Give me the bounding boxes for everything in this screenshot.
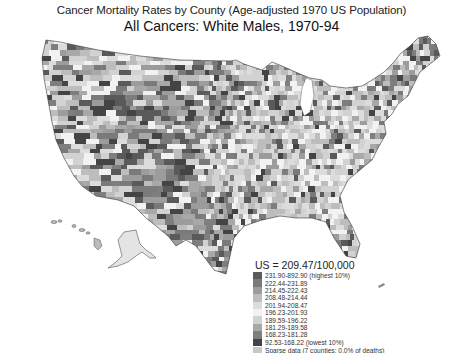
legend-swatch xyxy=(253,294,262,301)
legend-label: 208.48-214.44 xyxy=(265,294,308,301)
legend-label: 181.29-189.58 xyxy=(265,324,308,331)
legend-swatch xyxy=(253,316,262,323)
us-average-rate: US = 209.47/100,000 xyxy=(253,259,453,271)
legend-swatch xyxy=(253,331,262,338)
legend-item: 189.59-196.22 xyxy=(253,316,453,323)
legend-swatch xyxy=(253,279,262,286)
legend-swatch xyxy=(253,287,262,294)
legend-item: 208.48-214.44 xyxy=(253,294,453,301)
legend-item: 196.23-201.93 xyxy=(253,309,453,316)
map-legend: US = 209.47/100,000 231.90-892.90 (highe… xyxy=(253,259,453,353)
legend-swatch xyxy=(253,272,262,279)
legend-label: 231.90-892.90 (highest 10%) xyxy=(265,272,350,279)
legend-item: 214.45-222.43 xyxy=(253,287,453,294)
legend-label: 214.45-222.43 xyxy=(265,287,308,294)
hawaii xyxy=(51,220,102,250)
legend-swatch xyxy=(253,347,262,353)
legend-item: 92.53-168.22 (lowest 10%) xyxy=(253,339,453,346)
legend-item: Sparse data (7 counties; 0.0% of deaths) xyxy=(253,347,453,353)
legend-swatch xyxy=(253,324,262,331)
legend-swatch xyxy=(253,339,262,346)
legend-swatch xyxy=(253,302,262,309)
legend-label: 92.53-168.22 (lowest 10%) xyxy=(265,339,344,346)
legend-label: 168.23-181.28 xyxy=(265,331,308,338)
legend-label: 222.44-231.89 xyxy=(265,280,308,287)
legend-swatch xyxy=(253,309,262,316)
legend-item: 181.29-189.58 xyxy=(253,324,453,331)
legend-item: 201.94-208.47 xyxy=(253,302,453,309)
legend-item: 168.23-181.28 xyxy=(253,331,453,338)
legend-item: 231.90-892.90 (highest 10%) xyxy=(253,272,453,279)
alaska xyxy=(108,230,156,268)
legend-label: 201.94-208.47 xyxy=(265,302,308,309)
legend-label: 196.23-201.93 xyxy=(265,309,308,316)
map-title: Cancer Mortality Rates by County (Age-ad… xyxy=(0,4,463,16)
legend-label: Sparse data (7 counties; 0.0% of deaths) xyxy=(265,347,385,353)
legend-label: 189.59-196.22 xyxy=(265,317,308,324)
legend-item: 222.44-231.89 xyxy=(253,279,453,286)
